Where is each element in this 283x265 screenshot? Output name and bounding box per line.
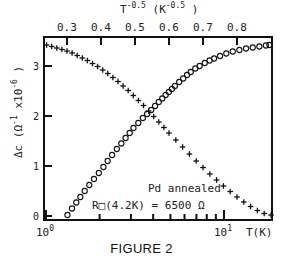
circle-point — [101, 164, 106, 169]
top-tick-labels: 0.30.40.50.60.70.8 — [57, 21, 247, 34]
top-axis-title: T-0.5 (K-0.5 ) — [120, 1, 198, 16]
y-tick-label: 1 — [33, 161, 39, 172]
cross-point — [187, 151, 193, 157]
cross-point — [49, 44, 55, 50]
cross-point — [131, 93, 137, 99]
cross-point — [69, 50, 75, 56]
circle-point — [224, 51, 229, 56]
circle-point — [78, 194, 83, 199]
circle-point — [109, 152, 114, 157]
y-tick-label: 2 — [33, 111, 39, 122]
circle-point — [172, 83, 177, 88]
cross-point — [141, 103, 147, 109]
cross-point — [95, 64, 101, 70]
cross-point — [207, 171, 213, 177]
circle-point — [119, 141, 124, 146]
bottom-tick-label-1: 100 — [36, 224, 54, 239]
top-tick-label: 0.8 — [227, 21, 247, 34]
circle-point — [166, 89, 171, 94]
circle-point — [96, 170, 101, 175]
circle-point — [250, 45, 255, 50]
circle-point — [188, 69, 193, 74]
circle-point — [217, 53, 222, 58]
bottom-axis-title: T(K) — [246, 226, 273, 239]
cross-point — [90, 61, 96, 67]
cross-point — [120, 83, 126, 89]
circle-point — [114, 146, 119, 151]
cross-point — [261, 211, 267, 217]
cross-point — [125, 88, 131, 94]
circle-point — [197, 63, 202, 68]
cross-point — [234, 194, 240, 200]
top-tick-label: 0.5 — [125, 21, 145, 34]
circle-point — [127, 130, 132, 135]
y-axis-title: Δc (Ω-1 x10-6 ) — [10, 66, 25, 158]
circle-point — [91, 176, 96, 181]
circle-point — [74, 200, 79, 205]
cross-point — [248, 204, 254, 210]
circle-point — [82, 188, 87, 193]
cross-point — [156, 119, 162, 125]
circle-point — [163, 92, 168, 97]
cross-point — [54, 45, 60, 51]
cross-point — [166, 130, 172, 136]
circle-point — [65, 212, 70, 217]
circle-point — [230, 49, 235, 54]
cross-point — [221, 183, 227, 189]
cross-point — [151, 114, 157, 120]
y-tick-labels: 0123 — [33, 61, 39, 222]
bottom-tick-label-10: 101 — [214, 224, 232, 239]
circle-point — [257, 44, 262, 49]
y-tick-label: 0 — [33, 211, 39, 222]
cross-point — [173, 137, 179, 143]
circle-point — [169, 86, 174, 91]
circle-point — [105, 158, 110, 163]
cross-point — [241, 199, 247, 205]
cross-point — [193, 158, 199, 164]
circle-point — [69, 206, 74, 211]
annotation-sample: Pd annealed — [148, 182, 221, 195]
cross-point — [200, 165, 206, 171]
circle-point — [131, 125, 136, 130]
top-tick-label: 0.7 — [193, 21, 213, 34]
cross-point — [85, 58, 91, 64]
top-tick-label: 0.4 — [91, 21, 111, 34]
cross-point — [136, 98, 142, 104]
cross-point — [227, 189, 233, 195]
circle-point — [87, 182, 92, 187]
circle-point — [140, 115, 145, 120]
circle-point — [136, 120, 141, 125]
cross-point — [80, 55, 86, 61]
circle-point — [123, 135, 128, 140]
cross-point — [180, 144, 186, 150]
cross-point — [64, 48, 70, 54]
cross-point — [100, 67, 106, 73]
y-tick-label: 3 — [33, 61, 39, 72]
cross-point — [59, 47, 65, 53]
cross-point — [255, 208, 261, 214]
cross-point — [110, 75, 116, 81]
cross-point — [105, 71, 111, 77]
circle-point — [243, 46, 248, 51]
annotation-resistance: R□(4.2K) = 6500 Ω — [92, 199, 205, 212]
top-tick-label: 0.3 — [57, 21, 77, 34]
circle-point — [212, 56, 217, 61]
cross-point — [161, 125, 167, 131]
figure: T-0.5 (K-0.5 ) 0.30.40.50.60.70.8 0123 Δ… — [0, 0, 283, 265]
circle-point — [237, 47, 242, 52]
cross-point — [115, 79, 121, 85]
cross-point — [74, 53, 80, 59]
figure-caption: FIGURE 2 — [0, 241, 283, 256]
top-tick-label: 0.6 — [159, 21, 179, 34]
